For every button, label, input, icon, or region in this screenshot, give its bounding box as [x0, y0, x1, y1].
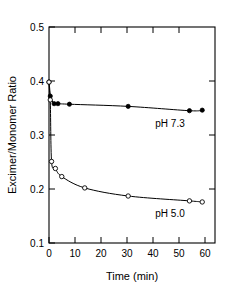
series-label-ph-5-0: pH 5.0	[155, 208, 185, 219]
data-point-ph-7-3	[187, 109, 191, 113]
x-tick-label-4: 40	[147, 248, 159, 259]
data-point-ph-5-0	[49, 159, 53, 163]
x-tick-label-1: 10	[69, 248, 81, 259]
excimer-monomer-ratio-chart: 0.5 0.4 0.3 0.2 0.1 0 10 20 30 40 50 60 …	[0, 0, 235, 293]
data-point-ph-5-0	[200, 200, 204, 204]
plot-frame	[49, 27, 215, 243]
y-tick-label-2: 0.3	[30, 130, 44, 141]
curve-ph-5-0	[49, 82, 202, 202]
y-tick-label-3: 0.4	[30, 76, 44, 87]
data-point-ph-7-3	[200, 108, 204, 112]
data-point-ph-7-3	[56, 102, 60, 106]
x-axis-ticks-bottom	[49, 237, 205, 243]
plot-area-border	[49, 27, 215, 243]
x-axis-title: Time (min)	[106, 270, 158, 282]
x-tick-label-2: 20	[95, 248, 107, 259]
x-tick-label-5: 50	[173, 248, 185, 259]
y-tick-label-0: 0.1	[30, 238, 44, 249]
data-point-ph-5-0	[126, 194, 130, 198]
x-tick-label-3: 30	[121, 248, 133, 259]
data-point-ph-7-3	[67, 102, 71, 106]
data-point-ph-5-0	[187, 199, 191, 203]
data-point-ph-5-0	[48, 98, 52, 102]
y-axis-ticks-left	[49, 27, 55, 243]
x-tick-label-6: 60	[199, 248, 211, 259]
series-markers	[47, 80, 205, 204]
series-curves	[49, 82, 202, 202]
y-tick-label-4: 0.5	[30, 22, 44, 33]
figure-container: 0.5 0.4 0.3 0.2 0.1 0 10 20 30 40 50 60 …	[0, 0, 235, 293]
data-point-ph-5-0	[60, 174, 64, 178]
y-axis-title: Excimer/Monomer Ratio	[6, 76, 18, 194]
data-point-ph-5-0	[47, 80, 51, 84]
x-axis-ticks-top	[75, 27, 179, 33]
x-tick-label-0: 0	[46, 248, 52, 259]
data-point-ph-7-3	[126, 104, 130, 108]
y-axis-ticks-right	[209, 81, 215, 189]
x-tick-labels: 0 10 20 30 40 50 60	[46, 248, 211, 259]
y-tick-labels: 0.5 0.4 0.3 0.2 0.1	[30, 22, 44, 249]
y-tick-label-1: 0.2	[30, 184, 44, 195]
series-label-ph-7-3: pH 7.3	[155, 118, 185, 129]
data-point-ph-5-0	[83, 186, 87, 190]
data-point-ph-5-0	[53, 166, 57, 170]
curve-ph-7-3	[49, 82, 202, 111]
